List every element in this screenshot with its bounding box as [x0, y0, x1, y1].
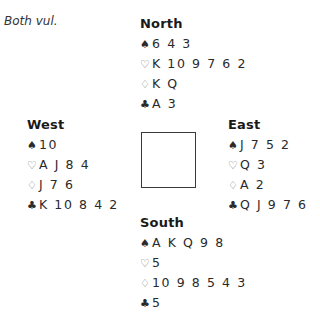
spade-icon: ♠	[140, 234, 152, 254]
diamond-icon: ♢	[228, 176, 240, 196]
east-diamonds: ♢A 2	[228, 175, 308, 195]
west-spades: ♠10	[27, 135, 119, 155]
table-square	[141, 132, 196, 188]
south-diamonds: ♢10 9 8 5 4 3	[140, 273, 247, 293]
hand-west-name: West	[27, 115, 119, 135]
spade-icon: ♠	[228, 136, 240, 156]
east-hearts: ♡Q 3	[228, 155, 308, 175]
diamond-icon: ♢	[140, 274, 152, 294]
north-clubs: ♣A 3	[140, 94, 247, 114]
heart-icon: ♡	[27, 156, 39, 176]
diamond-icon: ♢	[140, 75, 152, 95]
north-diamonds: ♢K Q	[140, 74, 247, 94]
north-hearts: ♡K 10 9 7 6 2	[140, 54, 247, 74]
spade-icon: ♠	[140, 35, 152, 55]
south-clubs: ♣5	[140, 293, 247, 313]
spade-icon: ♠	[27, 136, 39, 156]
hand-west: West ♠10 ♡A J 8 4 ♢J 7 6 ♣K 10 8 4 2	[27, 115, 119, 215]
club-icon: ♣	[140, 95, 152, 115]
club-icon: ♣	[140, 294, 152, 314]
south-spades: ♠A K Q 9 8	[140, 233, 247, 253]
hand-east: East ♠J 7 5 2 ♡Q 3 ♢A 2 ♣Q J 9 7 6	[228, 115, 308, 215]
south-hearts: ♡5	[140, 253, 247, 273]
heart-icon: ♡	[140, 55, 152, 75]
west-clubs: ♣K 10 8 4 2	[27, 195, 119, 215]
east-spades: ♠J 7 5 2	[228, 135, 308, 155]
north-spades: ♠6 4 3	[140, 34, 247, 54]
club-icon: ♣	[27, 196, 39, 216]
east-clubs: ♣Q J 9 7 6	[228, 195, 308, 215]
vulnerability-label: Both vul.	[4, 14, 58, 28]
heart-icon: ♡	[140, 254, 152, 274]
west-hearts: ♡A J 8 4	[27, 155, 119, 175]
hand-north: North ♠6 4 3 ♡K 10 9 7 6 2 ♢K Q ♣A 3	[140, 14, 247, 114]
heart-icon: ♡	[228, 156, 240, 176]
west-diamonds: ♢J 7 6	[27, 175, 119, 195]
hand-south: South ♠A K Q 9 8 ♡5 ♢10 9 8 5 4 3 ♣5	[140, 213, 247, 313]
hand-north-name: North	[140, 14, 247, 34]
hand-east-name: East	[228, 115, 308, 135]
diamond-icon: ♢	[27, 176, 39, 196]
hand-south-name: South	[140, 213, 247, 233]
